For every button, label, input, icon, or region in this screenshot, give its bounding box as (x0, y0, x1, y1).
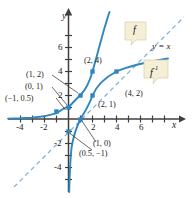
y-tick-label-neg4: -4 (54, 163, 62, 172)
y-axis-name: y (62, 12, 66, 22)
f-inverse-label: f-1 (150, 63, 158, 79)
point-marker (66, 129, 70, 133)
x-tick-label-4: 4 (115, 123, 120, 132)
f-label: f (133, 25, 136, 35)
point-label-4-2: (4, 2) (125, 90, 143, 98)
point-label-1-0: (1, 0) (93, 140, 111, 148)
point-marker (54, 109, 58, 113)
y-tick-label-6: 6 (58, 43, 63, 52)
point-label-2-4: (2, 4) (84, 57, 102, 65)
point-label-half-neg1: (0.5, −1) (79, 150, 108, 158)
point-marker (114, 69, 118, 73)
x-tick-label-neg4: -4 (16, 123, 24, 132)
x-tick-label-neg2: -2 (40, 123, 48, 132)
y-tick-label-2: 2 (58, 91, 63, 100)
point-marker (66, 105, 70, 109)
point-label-neg1-half: (−1, 0.5) (5, 95, 34, 103)
point-label-2-1: (2, 1) (98, 101, 116, 109)
point-marker (90, 69, 94, 73)
y-tick-label-4: 4 (58, 67, 63, 76)
point-label-1-2: (1, 2) (26, 71, 44, 79)
x-tick-label-2: 2 (91, 123, 96, 132)
point-marker (78, 93, 82, 97)
x-tick-label-6: 6 (139, 123, 144, 132)
point-label-0-1: (0, 1) (25, 83, 43, 91)
y-equals-x-label: y = x (152, 42, 171, 51)
x-axis-name: x (172, 121, 176, 131)
point-marker (90, 93, 94, 97)
y-tick-label-neg2: -2 (54, 139, 62, 148)
figure-container: -4 -2 2 4 6 6 4 2 -2 -4 x y (2, 4) (1, 2… (0, 0, 194, 198)
f-inverse-exponent: -1 (153, 64, 158, 71)
